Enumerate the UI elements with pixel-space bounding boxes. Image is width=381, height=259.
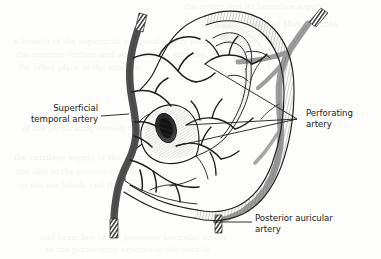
label-posterior-auricular-line2: artery [255, 224, 281, 234]
bleed-line: the anterior surface and anastomoses wit… [16, 50, 206, 59]
bleed-line: the cartilage supply of the auricle is [14, 153, 161, 162]
label-posterior-auricular-line1: Posterior auricular [255, 213, 333, 223]
ear-artery-figure: the artery and its branches supply The c… [0, 0, 381, 259]
label-superficial-temporal-line1: Superficial [53, 103, 98, 113]
bleed-line: a branch of the superficial temporal art… [14, 37, 217, 46]
label-superficial-temporal-line2: temporal artery [31, 114, 98, 124]
bleed-line: of the ear lobule and the [20, 181, 120, 190]
ear-artery-illustration: the artery and its branches supply The c… [0, 0, 381, 259]
bleed-line: the other place of the arteries [18, 63, 140, 72]
bleed-line: and branches of the posterior auricular … [40, 233, 228, 242]
bleed-line: the artery and its branches supply [184, 2, 324, 11]
bleed-line: to the perforating arteries of the auric… [46, 245, 209, 254]
label-perforating-line2: artery [306, 119, 332, 129]
label-perforating-line1: Perforating [306, 108, 353, 118]
superficial-temporal-cut-end-inferior [110, 219, 118, 238]
